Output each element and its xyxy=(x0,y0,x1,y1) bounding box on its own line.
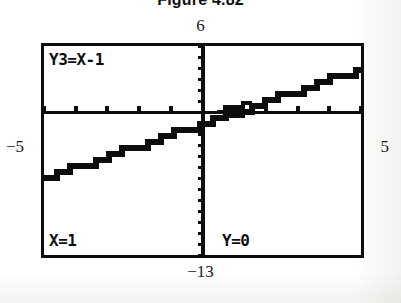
y-tick xyxy=(198,89,204,92)
y-tick xyxy=(198,221,204,224)
calculator-screen: Y3=X-1 X=1 Y=0 xyxy=(41,43,364,258)
x-tick xyxy=(296,106,300,111)
window-label-xmin: −5 xyxy=(6,137,24,157)
y-tick xyxy=(198,199,204,202)
y-tick xyxy=(198,210,204,213)
window-label-ymin: −13 xyxy=(0,262,401,282)
trace-x-readout: X=1 xyxy=(49,233,76,249)
x-tick xyxy=(359,106,363,111)
trace-cursor xyxy=(223,105,245,118)
x-tick xyxy=(105,106,109,111)
x-tick xyxy=(74,106,78,111)
y-tick xyxy=(198,243,204,246)
y-tick xyxy=(198,232,204,235)
y-tick xyxy=(198,100,204,103)
x-tick xyxy=(327,106,331,111)
y-tick xyxy=(198,56,204,59)
equation-label: Y3=X-1 xyxy=(49,52,104,68)
y-tick xyxy=(198,254,204,257)
y-tick xyxy=(198,122,204,125)
y-tick xyxy=(198,45,204,48)
y-tick xyxy=(198,133,204,136)
window-label-ymax: 6 xyxy=(0,16,401,36)
window-label-xmax: 5 xyxy=(381,137,390,157)
y-tick xyxy=(198,155,204,158)
y-tick xyxy=(198,144,204,147)
x-tick xyxy=(169,106,173,111)
y-tick xyxy=(198,166,204,169)
x-tick xyxy=(137,106,141,111)
x-tick xyxy=(42,106,46,111)
y-tick xyxy=(198,67,204,70)
plot-area: Y3=X-1 X=1 Y=0 xyxy=(44,46,361,255)
y-tick xyxy=(198,177,204,180)
trace-y-readout: Y=0 xyxy=(222,233,249,249)
figure-caption: Figure 4.82 xyxy=(0,0,401,9)
y-tick xyxy=(198,188,204,191)
x-tick xyxy=(264,106,268,111)
y-tick xyxy=(198,78,204,81)
